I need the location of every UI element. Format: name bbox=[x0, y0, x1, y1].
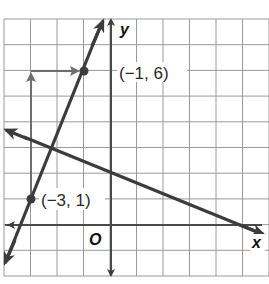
decreasing-line-right-arrow bbox=[240, 225, 263, 234]
point-neg1-6 bbox=[80, 67, 89, 76]
steep-line-bottom-arrow bbox=[5, 240, 15, 263]
y-axis-label: y bbox=[119, 21, 130, 38]
x-axis-label: x bbox=[251, 234, 262, 251]
steep-line bbox=[8, 27, 100, 256]
decreasing-line-left-arrow bbox=[6, 130, 28, 139]
point-label-neg3-1: (−3, 1) bbox=[41, 191, 91, 210]
origin-label: O bbox=[89, 231, 102, 248]
point-neg3-1 bbox=[27, 195, 36, 204]
decreasing-line bbox=[24, 137, 262, 234]
steep-line-top-arrow bbox=[92, 21, 103, 46]
point-label-neg1-6: (−1, 6) bbox=[119, 64, 169, 83]
grid bbox=[4, 19, 269, 276]
coordinate-graph: (−1, 6) (−3, 1) x y O bbox=[0, 0, 269, 284]
